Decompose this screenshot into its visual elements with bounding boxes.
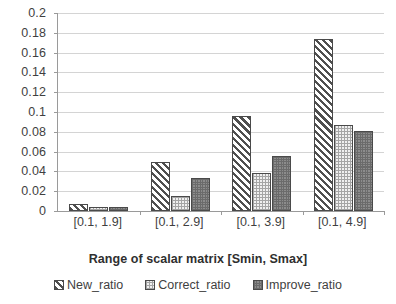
legend-label: Improve_ratio [266,279,342,292]
bar-group-bars [58,13,140,211]
bar-group [140,13,222,211]
bar-new_ratio[interactable] [314,39,333,211]
y-tick-mark [54,211,58,212]
legend-label: New_ratio [67,279,123,292]
bar-group [303,13,385,211]
x-tick-mark [303,211,304,215]
x-tick-mark [384,211,385,215]
y-tick-label: 0.04 [21,165,46,178]
x-tick-label: [0.1, 2.9] [139,216,221,229]
bar-group-bars [140,13,222,211]
x-tick-label: [0.1, 1.9] [57,216,139,229]
bar-correct_ratio[interactable] [89,207,108,211]
bar-improve_ratio[interactable] [354,131,373,211]
plot-area [57,13,384,212]
x-tick-label: [0.1, 4.9] [302,216,384,229]
y-axis-label-group: 0.20.180.160.140.120.10.080.060.040.020 [0,0,52,222]
bar-improve_ratio[interactable] [109,207,128,211]
bar-new_ratio[interactable] [69,204,88,211]
bar-correct_ratio[interactable] [334,125,353,211]
y-tick-label: 0.16 [21,46,46,59]
bar-new_ratio[interactable] [151,162,170,211]
y-tick-label: 0.1 [28,106,46,119]
y-tick-label: 0 [39,205,46,218]
legend-swatch-icon [253,280,263,290]
y-tick-label: 0.2 [28,7,46,20]
bar-correct_ratio[interactable] [171,196,190,211]
bar-new_ratio[interactable] [232,116,251,211]
bar-group [221,13,303,211]
x-tick-label: [0.1, 3.9] [220,216,302,229]
bar-improve_ratio[interactable] [272,156,291,211]
legend-label: Correct_ratio [158,279,230,292]
legend: New_ratioCorrect_ratioImprove_ratio [0,279,396,292]
y-tick-label: 0.08 [21,126,46,139]
plot-wrapper: 0.20.180.160.140.120.10.080.060.040.020 … [0,0,396,222]
bar-improve_ratio[interactable] [191,178,210,211]
bar-group [58,13,140,211]
legend-swatch-icon [145,280,155,290]
x-tick-mark [221,211,222,215]
y-tick-label: 0.18 [21,27,46,40]
bar-correct_ratio[interactable] [252,173,271,211]
y-tick-label: 0.06 [21,145,46,158]
y-tick-label: 0.02 [21,185,46,198]
bar-group-container [58,13,384,211]
y-tick-label: 0.14 [21,66,46,79]
legend-item[interactable]: Improve_ratio [253,279,342,292]
legend-item[interactable]: New_ratio [54,279,123,292]
x-axis-label-group: [0.1, 1.9][0.1, 2.9][0.1, 3.9][0.1, 4.9] [57,216,383,229]
x-tick-mark [140,211,141,215]
x-axis-title: Range of scalar matrix [Smin, Smax] [0,252,396,266]
legend-item[interactable]: Correct_ratio [145,279,230,292]
y-tick-label: 0.12 [21,86,46,99]
legend-swatch-icon [54,280,64,290]
bar-group-bars [221,13,303,211]
bar-group-bars [303,13,385,211]
bar-chart: 0.20.180.160.140.120.10.080.060.040.020 … [0,0,396,304]
